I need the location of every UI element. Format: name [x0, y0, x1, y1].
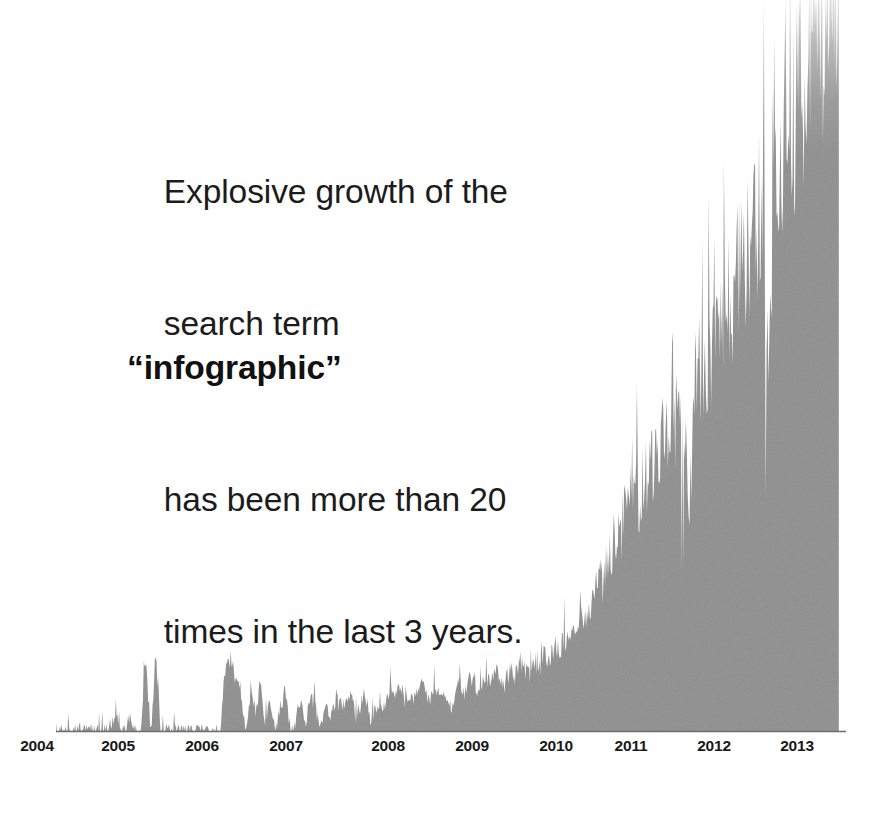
callout-line-3: has been more than 20	[164, 481, 506, 518]
callout-line-1: Explosive growth of the	[164, 173, 508, 210]
axis-label-2013: 2013	[780, 737, 814, 755]
axis-label-2004: 2004	[20, 737, 54, 755]
x-axis-labels: 2004200520062007200820092010201120122013	[0, 737, 890, 767]
axis-label-2011: 2011	[615, 737, 648, 755]
axis-label-2005: 2005	[101, 737, 135, 755]
axis-label-2012: 2012	[697, 737, 731, 755]
callout-line-4: times in the last 3 years.	[164, 613, 523, 650]
axis-label-2008: 2008	[371, 737, 405, 755]
callout-line-2-prefix: search term	[164, 305, 349, 342]
callout-keyword: “infographic”	[127, 349, 342, 386]
peak-fade-overlay	[640, 0, 890, 330]
infographic-trend-figure: Explosive growth of the search term “inf…	[0, 0, 890, 823]
axis-label-2006: 2006	[185, 737, 219, 755]
axis-label-2007: 2007	[269, 737, 303, 755]
axis-label-2010: 2010	[539, 737, 573, 755]
axis-label-2009: 2009	[455, 737, 489, 755]
callout-text: Explosive growth of the search term “inf…	[127, 126, 547, 698]
